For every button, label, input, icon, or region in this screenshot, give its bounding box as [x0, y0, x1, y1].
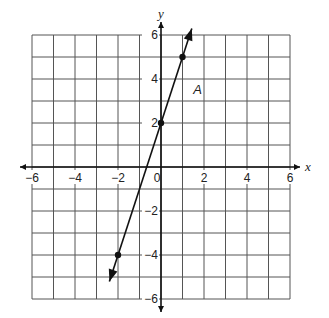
arrow-up-icon — [158, 22, 164, 28]
coordinate-plane: −6−4−20246−6−4−2246 x y A — [0, 0, 329, 318]
line-label-A: A — [192, 82, 202, 97]
x-tick-label: −2 — [111, 171, 125, 185]
data-point — [115, 252, 121, 258]
x-tick-label: −6 — [25, 171, 39, 185]
arrow-right-icon — [294, 164, 300, 170]
y-tick-label: −2 — [144, 204, 158, 218]
y-tick-label: −6 — [144, 292, 158, 306]
x-tick-label: 4 — [244, 171, 251, 185]
line-segment — [109, 28, 191, 281]
line-A — [109, 28, 193, 281]
y-tick-label: 4 — [151, 72, 158, 86]
data-point — [158, 120, 164, 126]
x-tick-label: 6 — [287, 171, 294, 185]
arrow-left-icon — [20, 164, 26, 170]
arrow-down-icon — [158, 306, 164, 312]
y-axis-label: y — [156, 6, 164, 21]
arrowhead-down-icon — [109, 269, 118, 282]
x-tick-label: 2 — [201, 171, 208, 185]
x-axis-label: x — [304, 159, 311, 174]
x-tick-label: 0 — [154, 171, 161, 185]
y-tick-label: 6 — [151, 28, 158, 42]
y-tick-label: 2 — [151, 116, 158, 130]
y-tick-label: −4 — [144, 248, 158, 262]
axes — [20, 22, 300, 312]
x-tick-label: −4 — [68, 171, 82, 185]
data-point — [179, 54, 185, 60]
